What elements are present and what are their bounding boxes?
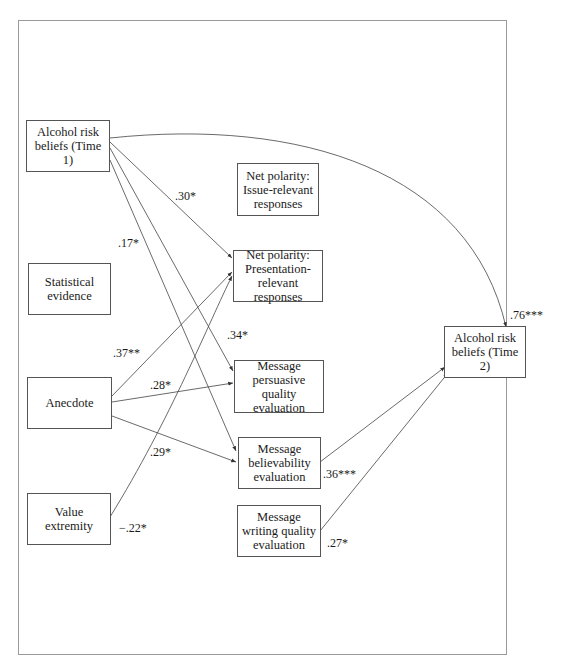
node-alcohol-risk-beliefs-time2: Alcohol risk beliefs (Time 2): [444, 326, 526, 378]
coef-anec-mpqe: .28*: [150, 379, 171, 391]
node-net-polarity-presentation-relevant: Net polarity: Presentation- relevant res…: [233, 250, 323, 302]
coef-valx-nppr: −.22*: [119, 522, 147, 534]
coef-arb1-nppr: .30*: [175, 190, 196, 202]
node-alcohol-risk-beliefs-time1: Alcohol risk beliefs (Time 1): [26, 120, 110, 172]
node-message-writing-quality: Message writing quality evaluation: [237, 505, 321, 557]
node-net-polarity-issue-relevant: Net polarity: Issue-relevant responses: [237, 163, 319, 216]
coef-arb1-arb2: .76***: [510, 309, 543, 321]
node-statistical-evidence: Statistical evidence: [28, 263, 111, 315]
node-message-persuasive-quality: Message persuasive quality evaluation: [234, 360, 324, 413]
node-value-extremity: Value extremity: [27, 493, 111, 545]
coef-arb1-mbe: .17*: [118, 237, 139, 249]
coef-anec-mbe: .29*: [150, 446, 171, 458]
node-message-believability: Message believability evaluation: [238, 437, 321, 489]
coef-mbe-arb2: .36***: [323, 468, 356, 480]
coef-anec-nppr: .37**: [113, 347, 140, 359]
node-anecdote: Anecdote: [27, 377, 112, 429]
coef-arb1-mpqe: .34*: [227, 329, 248, 341]
diagram-frame: [18, 20, 507, 655]
coef-mwqe-arb2: .27*: [327, 537, 348, 549]
